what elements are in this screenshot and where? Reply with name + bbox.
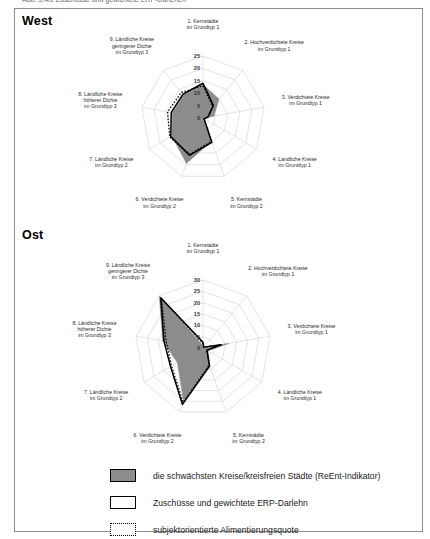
legend-label: Zuschüsse und gewichtete ERP-Darlehn [153,498,308,508]
svg-text:im Grundtyp 1: im Grundtyp 1 [258,46,291,52]
radar-category-labels: 1. Kernstädteim Grundtyp 12. Hochverdich… [72,242,335,444]
legend-item: subjektorientierte Alimentierungsquote [110,516,410,539]
svg-text:20: 20 [194,300,200,306]
svg-text:im Grundtyp 2: im Grundtyp 2 [141,438,174,444]
legend-label: subjektorientierte Alimentierungsquote [153,525,299,535]
svg-text:1. Kernstädte: 1. Kernstädte [188,18,219,24]
radar-svg: 05101520251. Kernstädteim Grundtyp 12. H… [36,14,391,214]
svg-text:5: 5 [197,103,200,109]
legend: die schwächsten Kreise/kreisfreien Städt… [110,462,410,539]
svg-text:3. Verdichtete Kreise: 3. Verdichtete Kreise [288,323,336,329]
legend-item: die schwächsten Kreise/kreisfreien Städt… [110,462,410,489]
svg-text:im Grundtyp 2: im Grundtyp 2 [143,203,176,209]
svg-text:2. Hochverdichtete Kreise: 2. Hochverdichtete Kreise [244,39,304,45]
svg-text:im Grundtyp 1: im Grundtyp 1 [187,24,220,30]
svg-text:im Grundtyp 2: im Grundtyp 2 [232,438,265,444]
legend-swatch-filled [110,469,136,482]
svg-text:im Grundtyp 2: im Grundtyp 2 [95,162,128,168]
svg-text:im Grundtyp 1: im Grundtyp 1 [289,100,322,106]
svg-text:25: 25 [194,288,200,294]
svg-text:im Grundtyp 3: im Grundtyp 3 [84,103,117,109]
svg-text:10: 10 [194,322,200,328]
cut-off-caption-text: Abb. 3.4/2 Zuschüsse und gewichtete ERP-… [22,0,186,3]
svg-text:im Grundtyp 3: im Grundtyp 3 [78,332,111,338]
svg-text:5. Kernstädte: 5. Kernstädte [231,196,262,202]
svg-text:im Grundtyp 1: im Grundtyp 1 [295,329,328,335]
svg-text:im Grundtyp 2: im Grundtyp 2 [230,203,263,209]
svg-text:höherer Dichte: höherer Dichte [83,97,117,103]
svg-text:geringerer Dichte: geringerer Dichte [108,268,148,274]
svg-text:15: 15 [194,311,200,317]
svg-text:2. Hochverdichtete Kreise: 2. Hochverdichtete Kreise [248,265,308,271]
svg-text:im Grundtyp 3: im Grundtyp 3 [116,49,149,55]
radar-chart-ost: 0510152025301. Kernstädteim Grundtyp 12.… [36,238,391,450]
svg-text:20: 20 [194,65,200,71]
legend-item: Zuschüsse und gewichtete ERP-Darlehn [110,489,410,516]
svg-text:geringerer Dichte: geringerer Dichte [112,43,152,49]
svg-text:im Grundtyp 2: im Grundtyp 2 [90,395,123,401]
svg-text:3. Verdichtete Kreise: 3. Verdichtete Kreise [282,94,330,100]
svg-text:im Grundtyp 1: im Grundtyp 1 [262,271,295,277]
cut-off-caption: Abb. 3.4/2 Zuschüsse und gewichtete ERP-… [22,0,322,7]
svg-text:10: 10 [194,90,200,96]
svg-text:6. Verdichtete Kreise: 6. Verdichtete Kreise [136,196,184,202]
svg-text:8. Ländliche Kreise: 8. Ländliche Kreise [78,91,122,97]
svg-text:im Grundtyp 1: im Grundtyp 1 [278,162,311,168]
svg-text:6. Verdichtete Kreise: 6. Verdichtete Kreise [134,432,182,438]
svg-text:30: 30 [194,277,200,283]
svg-text:25: 25 [194,53,200,59]
legend-swatch-outline [110,496,136,509]
svg-text:4. Ländliche Kreise: 4. Ländliche Kreise [278,389,322,395]
svg-text:im Grundtyp 1: im Grundtyp 1 [284,395,317,401]
svg-text:4. Ländliche Kreise: 4. Ländliche Kreise [273,156,317,162]
svg-text:0: 0 [197,115,200,121]
svg-text:0: 0 [197,345,200,351]
legend-label: die schwächsten Kreise/kreisfreien Städt… [153,471,380,481]
svg-text:im Grundtyp 3: im Grundtyp 3 [112,274,145,280]
svg-text:9. Ländliche Kreise: 9. Ländliche Kreise [106,262,150,268]
svg-text:5. Kernstädte: 5. Kernstädte [233,432,264,438]
svg-text:höherer Dichte: höherer Dichte [77,326,111,332]
legend-swatch-dotted [110,523,136,536]
svg-text:9. Ländliche Kreise: 9. Ländliche Kreise [110,36,154,42]
svg-text:7. Ländliche Kreise: 7. Ländliche Kreise [84,389,128,395]
radar-svg: 0510152025301. Kernstädteim Grundtyp 12.… [36,238,391,450]
svg-text:im Grundtyp 1: im Grundtyp 1 [187,248,220,254]
svg-text:1. Kernstädte: 1. Kernstädte [188,242,219,248]
figure-page: Abb. 3.4/2 Zuschüsse und gewichtete ERP-… [0,0,430,539]
svg-text:5: 5 [197,334,200,340]
svg-text:8. Ländliche Kreise: 8. Ländliche Kreise [72,320,116,326]
svg-text:15: 15 [194,78,200,84]
radar-chart-west: 05101520251. Kernstädteim Grundtyp 12. H… [36,14,391,214]
svg-text:7. Ländliche Kreise: 7. Ländliche Kreise [89,156,133,162]
